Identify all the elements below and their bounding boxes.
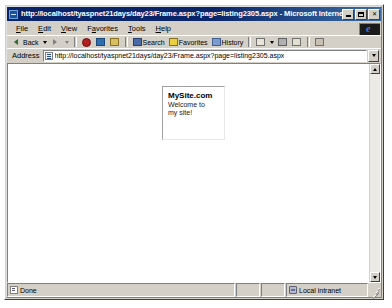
- refresh-button[interactable]: [94, 37, 108, 48]
- security-zone-label: Local intranet: [299, 286, 341, 295]
- discuss-icon: [315, 38, 324, 47]
- site-welcome-text: Welcome to my site!: [168, 101, 216, 117]
- menu-item-help[interactable]: Help: [151, 23, 176, 34]
- menu-item-tools-label: ools: [132, 24, 146, 33]
- site-heading: MySite.com: [168, 91, 220, 100]
- search-button-label: Search: [143, 39, 165, 46]
- status-message: Done: [20, 286, 37, 295]
- print-button[interactable]: [276, 37, 290, 48]
- address-value: http://localhost/tyaspnet21days/day23/Fr…: [55, 51, 285, 60]
- vertical-scrollbar[interactable]: [369, 64, 380, 282]
- history-icon: [212, 38, 221, 47]
- toolbar-separator-4: [307, 37, 310, 47]
- menu-item-edit[interactable]: Edit: [33, 23, 56, 34]
- back-arrow-icon: [13, 38, 22, 47]
- back-button[interactable]: Back: [11, 37, 41, 48]
- mail-button[interactable]: [254, 37, 268, 48]
- toolbar-separator-2: [125, 37, 128, 47]
- local-intranet-icon: [289, 286, 297, 294]
- scroll-up-arrow: [373, 68, 377, 71]
- back-dropdown-caret[interactable]: [43, 41, 47, 44]
- menu-item-view[interactable]: View: [56, 23, 82, 34]
- status-extra-pane-2: [261, 283, 285, 297]
- status-extra-pane-1: [236, 283, 260, 297]
- scroll-down-button[interactable]: [370, 272, 380, 282]
- security-zone-pane[interactable]: Local intranet: [286, 283, 368, 297]
- favorites-button[interactable]: Favorites: [167, 37, 210, 48]
- menu-bar: File Edit View Favorites Tools Help: [7, 22, 381, 35]
- title-bar[interactable]: http://localhost/tyaspnet21days/day23/Fr…: [7, 7, 381, 21]
- back-button-label: Back: [23, 39, 39, 46]
- menu-item-tools[interactable]: Tools: [123, 23, 151, 34]
- status-message-pane: Done: [7, 283, 235, 297]
- resize-grip-lines: [370, 286, 380, 296]
- menu-item-list: File Edit View Favorites Tools Help: [7, 23, 359, 34]
- history-button-label: History: [222, 39, 244, 46]
- mail-dropdown-caret[interactable]: [270, 41, 274, 44]
- menu-item-favorites-label-rest: vorites: [96, 24, 118, 33]
- window-controls: ✕: [342, 9, 380, 20]
- menu-item-favorites[interactable]: Favorites: [82, 23, 123, 34]
- browser-window: http://localhost/tyaspnet21days/day23/Fr…: [4, 4, 384, 300]
- ie-document-icon: [9, 10, 18, 19]
- scroll-up-button[interactable]: [370, 64, 380, 74]
- close-button[interactable]: ✕: [368, 9, 380, 20]
- menu-item-help-label: elp: [161, 24, 171, 33]
- done-document-icon: [10, 286, 18, 294]
- toolbar-separator-3: [248, 37, 251, 47]
- address-input[interactable]: http://localhost/tyaspnet21days/day23/Fr…: [43, 50, 367, 62]
- minimize-button[interactable]: [342, 9, 354, 20]
- address-label: Address: [12, 51, 40, 60]
- forward-arrow-icon: [51, 38, 60, 47]
- document-area: MySite.com Welcome to my site!: [7, 63, 381, 283]
- forward-button[interactable]: [49, 37, 63, 48]
- window-title: http://localhost/tyaspnet21days/day23/Fr…: [21, 9, 342, 19]
- toolbar-separator: [74, 37, 77, 47]
- search-icon: [133, 38, 142, 47]
- status-bar: Done Local intranet: [7, 283, 381, 297]
- refresh-icon: [96, 38, 105, 47]
- mail-icon: [256, 38, 265, 47]
- page-icon: [45, 52, 53, 60]
- print-icon: [278, 38, 287, 47]
- content-iframe: MySite.com Welcome to my site!: [162, 86, 225, 140]
- resize-grip[interactable]: [368, 283, 381, 297]
- home-button[interactable]: [108, 37, 122, 48]
- address-dropdown[interactable]: [368, 50, 379, 62]
- search-button[interactable]: Search: [131, 37, 167, 48]
- close-icon: ✕: [369, 10, 379, 19]
- discuss-button[interactable]: [313, 37, 327, 48]
- favorites-star-icon: [169, 38, 178, 47]
- forward-dropdown-caret[interactable]: [65, 41, 69, 44]
- internet-explorer-logo: [359, 23, 380, 35]
- scroll-down-arrow: [373, 276, 377, 279]
- menu-item-edit-label: dit: [43, 24, 51, 33]
- favorites-button-label: Favorites: [179, 39, 208, 46]
- home-icon: [110, 38, 119, 47]
- menu-item-file-label: ile: [21, 24, 29, 33]
- page-canvas[interactable]: MySite.com Welcome to my site!: [8, 64, 369, 282]
- menu-item-view-label: iew: [66, 24, 77, 33]
- history-button[interactable]: History: [210, 37, 246, 48]
- edit-button[interactable]: [290, 37, 304, 48]
- maximize-button[interactable]: [355, 9, 367, 20]
- standard-toolbar: Back Search Favorites History: [7, 35, 381, 48]
- address-bar: Address http://localhost/tyaspnet21days/…: [7, 48, 381, 62]
- stop-button[interactable]: [80, 37, 94, 48]
- edit-icon: [292, 38, 301, 47]
- menu-item-file[interactable]: File: [11, 23, 33, 34]
- iframe-content: MySite.com Welcome to my site!: [164, 88, 223, 138]
- stop-icon: [82, 38, 91, 47]
